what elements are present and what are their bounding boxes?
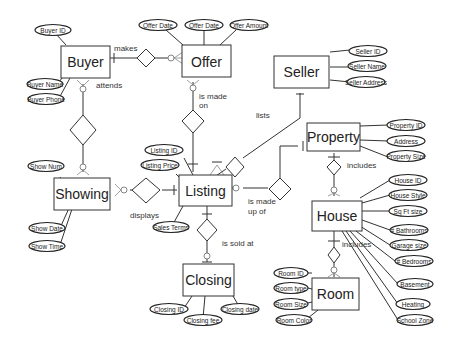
svg-text:Seller ID: Seller ID	[356, 48, 381, 55]
svg-text:Show Num: Show Num	[30, 163, 62, 170]
attr-closing-fee[interactable]: Closing fee	[184, 315, 222, 326]
label-is-made-up-of-1: is made	[248, 197, 277, 206]
entity-seller[interactable]: Seller	[274, 56, 329, 88]
attr-offer-date-2[interactable]: Offer Date	[185, 20, 223, 31]
entity-room-label: Room	[317, 286, 354, 302]
attr-buyer-phone[interactable]: Buyer Phone	[27, 94, 65, 105]
attr-house-style[interactable]: House Style	[389, 190, 427, 201]
attr-show-date[interactable]: Show Date	[29, 223, 65, 234]
svg-text:Offer Date: Offer Date	[143, 22, 173, 29]
svg-text:# Bathrooms: # Bathrooms	[391, 227, 429, 234]
relationship-is-made-on[interactable]: is made on	[182, 92, 228, 133]
attr-closing-date[interactable]: Closing date	[221, 304, 259, 315]
entity-closing[interactable]: Closing	[183, 264, 234, 296]
svg-text:# Bedrooms: # Bedrooms	[396, 258, 432, 265]
svg-text:Show Time: Show Time	[31, 243, 64, 250]
attr-offer-amount[interactable]: Offer Amount	[230, 20, 268, 31]
label-makes: makes	[114, 44, 138, 53]
svg-text:Property Size: Property Size	[386, 153, 425, 161]
entity-listing-label: Listing	[185, 183, 225, 199]
svg-text:Show Date: Show Date	[31, 225, 63, 232]
attr-garage-size[interactable]: Garage size	[390, 240, 428, 251]
relationship-attends[interactable]: attends	[70, 81, 122, 145]
attr-room-color[interactable]: Room Color	[276, 315, 312, 326]
label-displays: displays	[130, 211, 159, 220]
attr-room-id[interactable]: Room ID	[274, 268, 308, 279]
svg-text:Buyer Name: Buyer Name	[27, 81, 64, 89]
relationship-makes[interactable]: makes	[114, 44, 155, 67]
svg-text:Offer Amount: Offer Amount	[230, 22, 268, 29]
svg-text:Sales Terms: Sales Terms	[153, 224, 189, 231]
entity-closing-label: Closing	[185, 272, 232, 288]
svg-text:Sq Ft size: Sq Ft size	[394, 208, 423, 216]
svg-text:Closing ID: Closing ID	[154, 306, 184, 314]
svg-text:House ID: House ID	[394, 177, 421, 184]
attr-basement[interactable]: Basement	[397, 279, 433, 290]
attr-listing-price[interactable]: Listing Price	[141, 160, 179, 171]
relationship-is-sold-at[interactable]: is sold at	[197, 219, 254, 248]
attr-seller-id[interactable]: Seller ID	[349, 46, 387, 57]
entity-buyer[interactable]: Buyer	[61, 46, 110, 78]
label-is-made-on-2: on	[199, 101, 208, 110]
er-diagram: makes attends is made on lists includes …	[0, 0, 455, 346]
label-includes-property: includes	[347, 161, 376, 170]
svg-text:Offer Date: Offer Date	[189, 22, 219, 29]
entity-showing-label: Showing	[55, 186, 109, 202]
svg-text:Property ID: Property ID	[390, 122, 423, 130]
attr-bathrooms[interactable]: # Bathrooms	[390, 225, 428, 236]
attr-sq-ft-size[interactable]: Sq Ft size	[389, 206, 427, 217]
svg-text:Closing date: Closing date	[222, 306, 259, 314]
entity-listing[interactable]: Listing	[179, 175, 232, 206]
svg-text:Address: Address	[394, 138, 419, 145]
entity-offer[interactable]: Offer	[182, 45, 231, 77]
svg-text:Buyer ID: Buyer ID	[40, 27, 66, 35]
svg-text:Closing fee: Closing fee	[187, 317, 220, 325]
attr-school-zone[interactable]: School Zone	[397, 315, 434, 326]
attr-buyer-name[interactable]: Buyer Name	[27, 79, 64, 90]
attr-house-id[interactable]: House ID	[389, 175, 427, 186]
entity-property[interactable]: Property	[307, 123, 360, 151]
svg-text:Room Size: Room Size	[275, 301, 307, 308]
entity-room[interactable]: Room	[312, 278, 359, 310]
attr-property-id[interactable]: Property ID	[387, 120, 425, 131]
label-lists: lists	[256, 111, 270, 120]
relationship-includes-house[interactable]: includes	[328, 240, 371, 263]
svg-text:School Zone: School Zone	[397, 317, 434, 324]
svg-text:Basement: Basement	[400, 281, 429, 288]
entity-house[interactable]: House	[312, 201, 362, 231]
label-is-sold-at: is sold at	[222, 239, 254, 248]
attr-listing-id[interactable]: Listing ID	[145, 145, 183, 156]
attr-bedrooms[interactable]: # Bedrooms	[395, 256, 433, 267]
entity-property-label: Property	[307, 129, 360, 145]
svg-text:Seller Address: Seller Address	[345, 79, 388, 86]
attr-closing-id[interactable]: Closing ID	[150, 304, 188, 315]
svg-text:Listing ID: Listing ID	[150, 147, 177, 155]
relationship-includes-property[interactable]: includes	[327, 160, 376, 175]
entity-buyer-label: Buyer	[67, 54, 104, 70]
attr-address[interactable]: Address	[387, 136, 425, 147]
attr-show-num[interactable]: Show Num	[28, 161, 64, 172]
entity-offer-label: Offer	[191, 54, 222, 70]
attr-show-time[interactable]: Show Time	[29, 241, 65, 252]
label-is-made-on-1: is made	[199, 92, 228, 101]
label-is-made-up-of-2: up of	[248, 207, 267, 216]
attr-sales-terms[interactable]: Sales Terms	[153, 222, 190, 233]
attr-seller-address[interactable]: Seller Address	[345, 77, 388, 88]
attr-heating[interactable]: Heating	[396, 299, 430, 310]
relationship-displays[interactable]: displays	[130, 178, 160, 220]
svg-text:Garage size: Garage size	[391, 242, 426, 250]
svg-text:House Style: House Style	[390, 192, 425, 200]
label-attends: attends	[96, 81, 122, 90]
svg-text:Room ID: Room ID	[278, 270, 304, 277]
attr-offer-date-1[interactable]: Offer Date	[139, 20, 177, 31]
svg-text:Room Color: Room Color	[277, 317, 313, 324]
attr-buyer-id[interactable]: Buyer ID	[35, 25, 71, 36]
attr-seller-name[interactable]: Seller Name	[348, 61, 386, 72]
attr-room-type[interactable]: Room type	[274, 283, 308, 294]
svg-text:Room type: Room type	[275, 285, 307, 293]
relationship-is-made-up-of[interactable]: is made up of	[248, 178, 291, 216]
entity-showing[interactable]: Showing	[54, 178, 110, 210]
attr-room-size[interactable]: Room Size	[274, 299, 308, 310]
svg-text:Listing Price: Listing Price	[142, 162, 178, 170]
attr-property-size[interactable]: Property Size	[386, 151, 425, 162]
